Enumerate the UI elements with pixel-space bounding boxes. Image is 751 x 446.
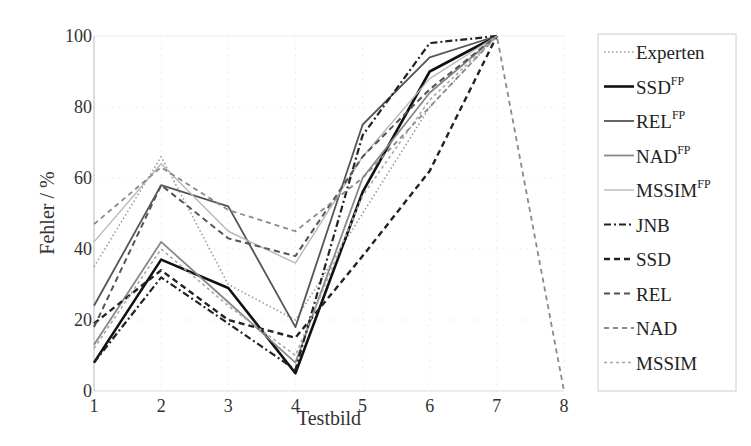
legend-label: NAD [636, 318, 677, 339]
y-axis-title: Fehler / % [36, 171, 58, 254]
series-line-nad [94, 36, 564, 391]
legend-label: Experten [636, 42, 705, 63]
y-tick-label: 60 [74, 168, 92, 188]
y-tick-label: 100 [65, 26, 92, 46]
axes [94, 36, 564, 391]
legend-label: REL [636, 284, 672, 305]
x-tick-label: 6 [425, 396, 434, 416]
x-axis-title: Testbild [297, 407, 361, 429]
x-tick-label: 7 [492, 396, 501, 416]
y-tick-label: 20 [74, 310, 92, 330]
legend: ExpertenSSDFPRELFPNADFPMSSIMFPJNBSSDRELN… [598, 34, 736, 391]
line-chart: 12345678020406080100 Testbild Fehler / %… [0, 0, 751, 446]
y-tick-label: 40 [74, 239, 92, 259]
y-tick-label: 80 [74, 97, 92, 117]
x-tick-label: 2 [157, 396, 166, 416]
x-tick-label: 3 [224, 396, 233, 416]
series-group [94, 36, 564, 391]
y-tick-label: 0 [83, 381, 92, 401]
legend-label: MSSIM [636, 353, 697, 374]
legend-label: JNB [636, 215, 670, 236]
x-tick-label: 8 [560, 396, 569, 416]
grid [94, 36, 564, 391]
legend-label: SSD [636, 249, 671, 270]
